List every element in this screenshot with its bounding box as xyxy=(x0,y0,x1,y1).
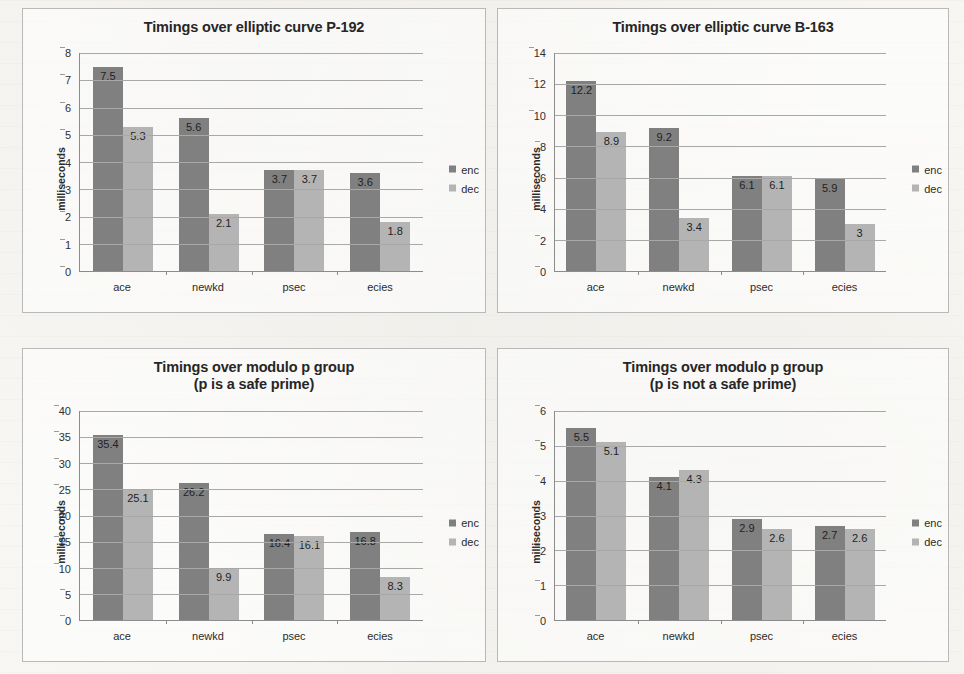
y-tick-mark xyxy=(60,74,65,75)
y-tick-mark xyxy=(535,405,540,406)
y-tick-mark xyxy=(535,203,540,204)
plot-frame: 5.55.14.14.32.92.62.72.6 xyxy=(554,411,886,621)
y-tick-label: 4 xyxy=(540,475,546,487)
bar-group: 12.28.9 xyxy=(555,53,638,271)
y-axis-ticks: 012345678 xyxy=(45,53,75,272)
bar-dec: 8.9 xyxy=(596,132,626,271)
y-tick-label: 2 xyxy=(65,211,71,223)
bar-enc: 5.9 xyxy=(815,179,845,271)
bar-value-label: 35.4 xyxy=(97,438,118,450)
chart-title: Timings over modulo p group (p is a safe… xyxy=(23,359,485,393)
x-axis-labels: acenewkdpsececies xyxy=(554,621,886,642)
x-tick-label: psec xyxy=(720,281,803,293)
gridline xyxy=(80,189,423,190)
legend-label-dec: dec xyxy=(924,536,942,548)
y-tick-mark xyxy=(60,211,65,212)
legend-item-enc: enc xyxy=(912,517,942,529)
x-tick-label: newkd xyxy=(637,630,720,642)
figure-sheet: Timings over elliptic curve P-192 millis… xyxy=(0,0,964,674)
legend-swatch-dec-icon xyxy=(449,185,456,192)
bar-enc: 16.4 xyxy=(264,534,294,620)
bar-group: 6.16.1 xyxy=(721,53,804,271)
bar-dec: 6.1 xyxy=(762,176,792,271)
bar-enc: 5.5 xyxy=(566,428,596,620)
plot-frame: 35.425.126.29.916.416.116.88.3 xyxy=(79,411,423,621)
y-tick-mark xyxy=(54,484,59,485)
bar-value-label: 5.6 xyxy=(186,121,201,133)
bar-value-label: 2.6 xyxy=(852,532,867,544)
legend-swatch-enc-icon xyxy=(912,166,919,173)
y-axis-ticks: 0123456 xyxy=(520,411,550,621)
bar-enc: 2.7 xyxy=(815,526,845,620)
legend-swatch-dec-icon xyxy=(449,538,456,545)
gridline xyxy=(555,516,886,517)
y-tick-label: 20 xyxy=(59,510,71,522)
legend: enc dec xyxy=(912,510,942,555)
y-tick-label: 1 xyxy=(540,580,546,592)
gridline xyxy=(555,240,886,241)
y-tick-mark xyxy=(60,589,65,590)
x-tick-label: ace xyxy=(554,630,637,642)
y-tick-mark xyxy=(529,47,534,48)
gridline xyxy=(555,411,886,412)
y-tick-label: 8 xyxy=(540,141,546,153)
bar-value-label: 3 xyxy=(857,227,863,239)
legend-item-enc: enc xyxy=(912,163,942,175)
y-tick-mark xyxy=(529,78,534,79)
x-tick-label: psec xyxy=(251,281,337,293)
gridline xyxy=(555,481,886,482)
legend-label-enc: enc xyxy=(924,163,942,175)
chart-body: milliseconds 012345678 7.55.35.62.13.73.… xyxy=(23,45,485,312)
x-tick-label: ace xyxy=(79,281,165,293)
bar-value-label: 12.2 xyxy=(571,84,592,96)
bar-enc: 3.7 xyxy=(264,170,294,271)
chart-panel-elliptic-p192: Timings over elliptic curve P-192 millis… xyxy=(22,8,486,313)
y-axis-ticks: 02468101214 xyxy=(520,53,550,272)
bar-value-label: 9.9 xyxy=(216,571,231,583)
legend-item-dec: dec xyxy=(449,182,479,194)
y-tick-mark xyxy=(60,615,65,616)
bar-value-label: 8.3 xyxy=(387,580,402,592)
y-tick-label: 5 xyxy=(65,129,71,141)
gridline xyxy=(80,80,423,81)
x-tick-label: ecies xyxy=(337,630,423,642)
chart-body: milliseconds 0123456 5.55.14.14.32.92.62… xyxy=(498,403,948,661)
y-tick-mark xyxy=(535,545,540,546)
y-tick-label: 14 xyxy=(534,47,546,59)
bar-dec: 4.3 xyxy=(679,470,709,620)
y-tick-mark xyxy=(535,235,540,236)
bar-value-label: 5.1 xyxy=(604,445,619,457)
x-tick-label: ace xyxy=(79,630,165,642)
y-tick-mark xyxy=(535,615,540,616)
y-tick-label: 12 xyxy=(534,78,546,90)
legend-item-enc: enc xyxy=(449,163,479,175)
legend-label-enc: enc xyxy=(461,163,479,175)
gridline xyxy=(555,550,886,551)
y-tick-mark xyxy=(54,405,59,406)
y-tick-label: 0 xyxy=(65,615,71,627)
legend: enc dec xyxy=(449,510,479,555)
bar-value-label: 5.5 xyxy=(574,431,589,443)
legend: enc dec xyxy=(912,156,942,201)
gridline xyxy=(555,146,886,147)
bar-enc: 7.5 xyxy=(93,67,123,271)
gridline xyxy=(80,437,423,438)
bar-value-label: 4.3 xyxy=(686,473,701,485)
plot-frame: 12.28.99.23.46.16.15.93 xyxy=(554,53,886,272)
legend: enc dec xyxy=(449,156,479,201)
x-tick-label: ecies xyxy=(337,281,423,293)
bar-value-label: 1.8 xyxy=(387,225,402,237)
gridline xyxy=(555,585,886,586)
y-tick-label: 5 xyxy=(540,440,546,452)
bar-value-label: 2.1 xyxy=(216,217,231,229)
legend-label-enc: enc xyxy=(924,517,942,529)
y-tick-mark xyxy=(60,47,65,48)
y-tick-mark xyxy=(535,510,540,511)
y-tick-mark xyxy=(535,172,540,173)
bar-group: 5.93 xyxy=(803,53,886,271)
y-tick-label: 6 xyxy=(65,102,71,114)
x-axis-labels: acenewkdpsececies xyxy=(79,621,423,642)
y-tick-mark xyxy=(60,266,65,267)
bar-value-label: 2.6 xyxy=(769,532,784,544)
y-tick-mark xyxy=(60,157,65,158)
